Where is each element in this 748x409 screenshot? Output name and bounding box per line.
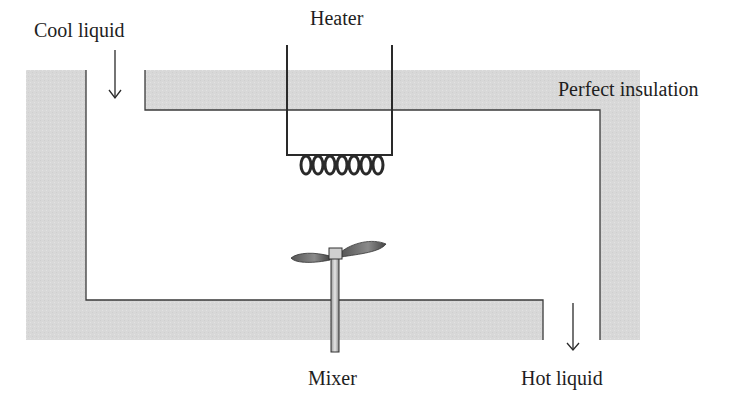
inlet-label: Cool liquid bbox=[34, 20, 125, 40]
tank-diagram bbox=[0, 0, 748, 409]
heater-coil-icon bbox=[301, 156, 383, 174]
heater-label: Heater bbox=[310, 8, 363, 28]
outlet-label: Hot liquid bbox=[521, 368, 603, 388]
mixer-impeller-icon bbox=[291, 241, 386, 262]
insulation-label: Perfect insulation bbox=[558, 79, 699, 99]
mixer-label: Mixer bbox=[308, 368, 357, 388]
inlet-arrow-icon bbox=[109, 50, 121, 98]
tank-inner-wall bbox=[86, 70, 600, 340]
outlet-arrow-icon bbox=[567, 303, 579, 350]
